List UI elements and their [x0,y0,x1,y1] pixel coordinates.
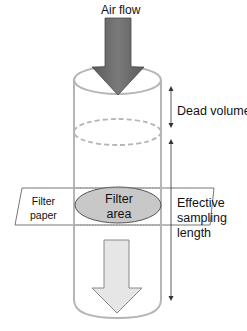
dashed-ellipse [74,119,161,145]
filter-paper-line-2: paper [30,208,57,222]
effective-line-3: length [177,226,227,241]
air-flow-label: Air flow [101,4,140,17]
filter-area-label: Filter area [92,192,146,222]
effective-line-1: Effective [177,196,227,211]
effective-line-2: sampling [177,211,227,226]
dead-volume-label: Dead volume [177,105,247,119]
filter-paper-line-1: Filter [30,194,57,208]
outlet-arrow-icon [92,240,142,313]
filter-area-line-2: area [92,207,146,222]
effective-sampling-length-label: Effective sampling length [177,196,227,241]
dead-volume-dimension [169,86,174,128]
filter-paper-label: Filter paper [30,194,57,222]
sampler-diagram [0,0,247,331]
filter-area-line-1: Filter [92,192,146,207]
